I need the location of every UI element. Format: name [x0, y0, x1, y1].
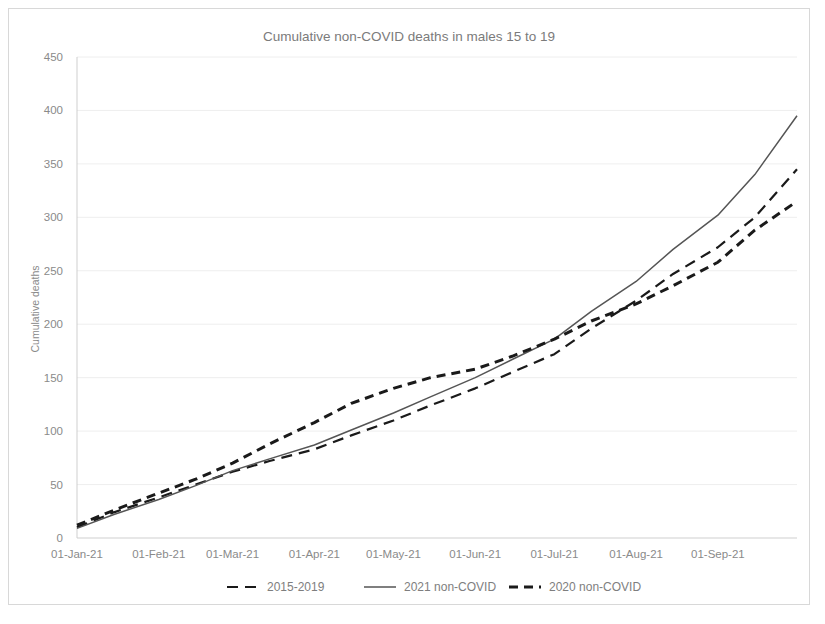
- y-tick-label: 0: [57, 532, 63, 544]
- legend-label: 2020 non-COVID: [549, 580, 641, 594]
- gridlines: [77, 57, 797, 485]
- x-tick-label: 01-Mar-21: [206, 548, 259, 560]
- legend-label: 2015-2019: [267, 580, 325, 594]
- y-tick-label: 350: [44, 158, 63, 170]
- y-tick-label: 50: [50, 479, 63, 491]
- y-tick-label: 300: [44, 211, 63, 223]
- y-tick-label: 100: [44, 425, 63, 437]
- x-tick-label: 01-Aug-21: [609, 548, 663, 560]
- chart-legend: 2015-20192021 non-COVID2020 non-COVID: [227, 580, 641, 594]
- axis-lines: [77, 57, 797, 538]
- series-line: [77, 201, 797, 525]
- y-tick-label: 250: [44, 265, 63, 277]
- data-series: [77, 116, 797, 529]
- chart-canvas: Cumulative non-COVID deaths in males 15 …: [9, 9, 809, 604]
- chart-title: Cumulative non-COVID deaths in males 15 …: [263, 29, 555, 44]
- x-tick-label: 01-Jun-21: [449, 548, 501, 560]
- y-tick-label: 400: [44, 104, 63, 116]
- x-tick-label: 01-Feb-21: [132, 548, 185, 560]
- y-tick-label: 200: [44, 318, 63, 330]
- y-axis-label: Cumulative deaths: [29, 266, 41, 353]
- chart-container: Cumulative non-COVID deaths in males 15 …: [8, 8, 810, 605]
- x-tick-label: 01-Jan-21: [51, 548, 103, 560]
- legend-label: 2021 non-COVID: [404, 580, 496, 594]
- series-line: [77, 169, 797, 527]
- x-axis-ticks: 01-Jan-2101-Feb-2101-Mar-2101-Apr-2101-M…: [51, 548, 745, 560]
- series-line: [77, 116, 797, 529]
- x-tick-label: 01-Sep-21: [691, 548, 745, 560]
- x-tick-label: 01-Apr-21: [289, 548, 340, 560]
- x-tick-label: 01-Jul-21: [530, 548, 578, 560]
- y-tick-label: 450: [44, 51, 63, 63]
- y-tick-label: 150: [44, 372, 63, 384]
- y-axis-ticks: 050100150200250300350400450: [44, 51, 63, 544]
- x-tick-label: 01-May-21: [366, 548, 421, 560]
